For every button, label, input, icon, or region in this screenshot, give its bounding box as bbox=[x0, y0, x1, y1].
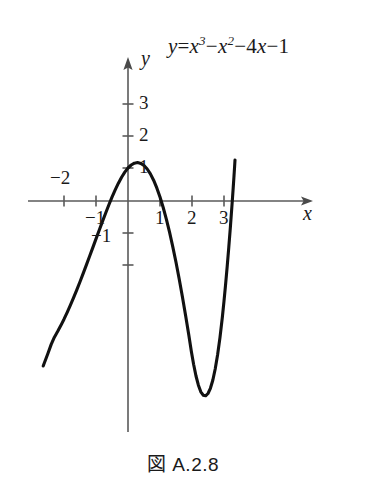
y-tick-label-neg1: −1 bbox=[91, 226, 111, 245]
x-tick-label-2: 2 bbox=[187, 208, 197, 227]
equation-annotation: y=x3−x2−4x−1 bbox=[168, 33, 289, 59]
y-tick-label-3: 3 bbox=[139, 93, 149, 112]
equation-equals: = bbox=[178, 34, 190, 58]
x-tick-label-neg2: −2 bbox=[50, 168, 70, 187]
plot-canvas bbox=[0, 0, 366, 489]
equation-term-4x: 4x bbox=[246, 34, 266, 58]
y-tick-label-2: 2 bbox=[139, 125, 149, 144]
figure-caption: 図 A.2.8 bbox=[0, 449, 366, 476]
y-tick-label-1: 1 bbox=[139, 157, 149, 176]
equation-lhs: y bbox=[168, 34, 178, 58]
equation-term-x2: x2 bbox=[218, 34, 234, 58]
equation-term-x3: x3 bbox=[190, 34, 206, 58]
x-axis-label: x bbox=[303, 203, 312, 223]
figure-container: y=x3−x2−4x−1 y x −2 −1 1 2 3 3 2 1 −1 図 … bbox=[0, 0, 366, 489]
equation-term-const: 1 bbox=[278, 34, 289, 58]
equation-minus-3: − bbox=[266, 34, 278, 58]
x-tick-label-3: 3 bbox=[219, 208, 229, 227]
equation-minus-2: − bbox=[234, 34, 246, 58]
function-curve bbox=[43, 160, 235, 396]
equation-minus-1: − bbox=[206, 34, 218, 58]
y-axis-label: y bbox=[141, 48, 150, 68]
x-tick-label-1: 1 bbox=[155, 208, 165, 227]
